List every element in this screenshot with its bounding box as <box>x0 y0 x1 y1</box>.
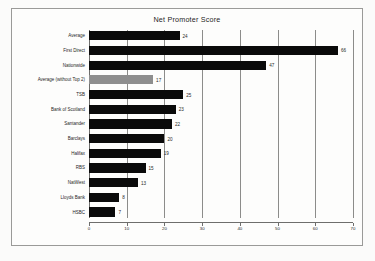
bar: 20 <box>89 134 164 143</box>
category-label: First Direct <box>16 46 87 56</box>
tick-label-70: 70 <box>351 226 356 231</box>
bar-row: 17 <box>89 75 353 85</box>
bar: 25 <box>89 90 183 99</box>
bar: 7 <box>89 207 115 216</box>
bar-row: 20 <box>89 134 353 144</box>
bar: 23 <box>89 105 176 114</box>
bar-value-label: 22 <box>175 121 180 126</box>
tick-label-0: 0 <box>88 226 90 231</box>
bar-row: 47 <box>89 60 353 70</box>
bar: 24 <box>89 31 180 40</box>
bar-value-label: 66 <box>341 48 346 53</box>
tick-label-50: 50 <box>275 226 280 231</box>
category-label: Nationwide <box>16 60 87 70</box>
category-label: Barclays <box>16 134 87 144</box>
bar-value-label: 8 <box>122 195 125 200</box>
bar: 66 <box>89 46 338 55</box>
bar-value-label: 17 <box>156 77 161 82</box>
bar-value-label: 13 <box>141 180 146 185</box>
category-label: Halifax <box>16 149 87 159</box>
gridline-70 <box>353 30 354 218</box>
bar-row: 8 <box>89 193 353 203</box>
tick-label-10: 10 <box>124 226 129 231</box>
category-label: Santander <box>16 119 87 129</box>
chart-title: Net Promoter Score <box>12 15 362 24</box>
category-label: HSBC <box>16 207 87 217</box>
category-label: Lloyds Bank <box>16 193 87 203</box>
bar-value-label: 47 <box>269 63 274 68</box>
category-axis-labels: AverageFirst DirectNationwideAverage (wi… <box>16 30 87 218</box>
bar-value-label: 19 <box>164 151 169 156</box>
tick-label-30: 30 <box>200 226 205 231</box>
bar-value-label: 7 <box>118 210 121 215</box>
bar-rows: 246647172523222019151387 <box>89 30 353 218</box>
bar-row: 24 <box>89 31 353 41</box>
bar-value-label: 15 <box>149 165 154 170</box>
bar-row: 7 <box>89 207 353 217</box>
bar-row: 19 <box>89 149 353 159</box>
category-label: Average (without Top 2) <box>16 75 87 85</box>
bar-row: 25 <box>89 90 353 100</box>
chart-frame: Net Promoter Score AverageFirst DirectNa… <box>11 8 363 246</box>
bar-value-label: 25 <box>186 92 191 97</box>
bar: 22 <box>89 119 172 128</box>
bar-row: 15 <box>89 163 353 173</box>
tick-label-60: 60 <box>313 226 318 231</box>
bar-value-label: 20 <box>167 136 172 141</box>
category-label: RBS <box>16 163 87 173</box>
bar: 15 <box>89 163 146 172</box>
bar-row: 66 <box>89 46 353 56</box>
bar: 19 <box>89 149 161 158</box>
tick-label-40: 40 <box>237 226 242 231</box>
bar: 17 <box>89 75 153 84</box>
bar: 47 <box>89 61 266 70</box>
category-label: Bank of Scotland <box>16 104 87 114</box>
bar: 8 <box>89 193 119 202</box>
tick-label-20: 20 <box>162 226 167 231</box>
bar-value-label: 23 <box>179 107 184 112</box>
category-label: TSB <box>16 90 87 100</box>
x-axis-ticks: 010203040506070 <box>89 223 353 233</box>
scanned-page: Net Promoter Score AverageFirst DirectNa… <box>0 0 375 261</box>
bar-row: 22 <box>89 119 353 129</box>
bar-value-label: 24 <box>183 33 188 38</box>
bar-row: 23 <box>89 104 353 114</box>
bar-row: 13 <box>89 178 353 188</box>
plot-area: 246647172523222019151387 <box>89 30 353 218</box>
category-label: NatWest <box>16 178 87 188</box>
category-label: Average <box>16 31 87 41</box>
bar: 13 <box>89 178 138 187</box>
